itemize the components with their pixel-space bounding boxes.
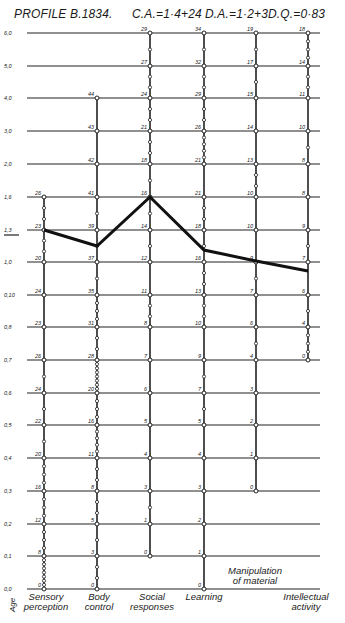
scale-value: 5 — [144, 418, 148, 424]
scale-bead — [148, 304, 151, 307]
scale-value: 3 — [198, 484, 202, 490]
scale-bead — [95, 399, 98, 402]
scale-bead — [42, 563, 45, 566]
scale-bead — [95, 363, 98, 366]
scale-bead — [202, 206, 205, 209]
scale-bead — [306, 342, 309, 345]
scale-bead — [148, 506, 151, 509]
scale-value: 18 — [299, 26, 306, 32]
scale-value: 0 — [38, 582, 42, 588]
scale-value: 20 — [87, 386, 95, 392]
scale-bead — [202, 75, 205, 78]
y-tick-label: 1,0 — [4, 259, 13, 265]
scale-node — [254, 489, 258, 493]
scale-value: 31 — [88, 320, 94, 326]
scale-node — [254, 162, 258, 166]
scale-value: 2 — [197, 517, 201, 523]
scale-value: 37 — [88, 255, 95, 261]
scale-value: 5 — [198, 418, 202, 424]
scale-bead — [95, 383, 98, 386]
scale-bead — [202, 118, 205, 121]
scale-bead — [95, 450, 98, 453]
scale-bead — [254, 277, 257, 280]
scale-value: 10 — [247, 190, 254, 196]
scale-value: 35 — [88, 288, 95, 294]
scale-node — [202, 64, 206, 68]
scale-node — [306, 195, 310, 199]
scale-node — [42, 554, 46, 558]
scale-bead — [148, 107, 151, 110]
y-tick-label: 0,4 — [4, 455, 12, 461]
scale-bead — [306, 350, 309, 353]
scale-bead — [95, 371, 98, 374]
category-label: responses — [130, 601, 174, 612]
scale-value: 10 — [247, 223, 254, 229]
scale-value: 18 — [195, 223, 202, 229]
scale-value: 23 — [34, 320, 42, 326]
scale-node — [95, 129, 99, 133]
scale-value: 16 — [195, 255, 202, 261]
scale-bead — [95, 430, 98, 433]
scale-bead — [95, 565, 98, 568]
scale-node — [95, 554, 99, 558]
scale-bead — [95, 576, 98, 579]
scale-value: 1 — [198, 549, 201, 555]
scale-bead — [306, 48, 309, 51]
scale-value: 7 — [250, 288, 254, 294]
scale-node — [202, 129, 206, 133]
scale-value: 3 — [144, 484, 148, 490]
scale-node — [148, 456, 152, 460]
scale-bead — [306, 56, 309, 59]
scale-node — [148, 96, 152, 100]
scale-bead — [42, 579, 45, 582]
category-label: Learning — [186, 591, 224, 602]
y-tick-label: 5,0 — [4, 63, 13, 69]
scale-bead — [95, 277, 98, 280]
scale-bead — [95, 443, 98, 446]
scale-value: 14 — [299, 59, 305, 65]
scale-node — [306, 129, 310, 133]
scale-node — [254, 195, 258, 199]
scale-value: 8 — [38, 549, 42, 555]
scale-bead — [202, 136, 205, 139]
scale-value: 18 — [141, 157, 148, 163]
scale-bead — [95, 336, 98, 339]
scale-bead — [95, 309, 98, 312]
scale-value: 22 — [34, 418, 41, 424]
scale-value: 34 — [195, 26, 201, 32]
scale-value: 24 — [140, 91, 147, 97]
scale-bead — [254, 342, 257, 345]
scale-value: 0 — [250, 484, 254, 490]
scale-bead — [306, 86, 309, 89]
scale-bead — [95, 379, 98, 382]
scale-value: 7 — [302, 255, 306, 261]
scale-bead — [42, 575, 45, 578]
scale-node — [254, 358, 258, 362]
scale-bead — [42, 546, 45, 549]
y-tick-label: 3,0 — [4, 128, 13, 134]
scale-node — [306, 228, 310, 232]
scale-value: 5 — [91, 517, 95, 523]
scale-value: 11 — [141, 288, 147, 294]
scale-bead — [306, 244, 309, 247]
scale-value: 0 — [302, 353, 306, 359]
scale-value: 0 — [144, 549, 148, 555]
scale-bead — [95, 212, 98, 215]
scale-bead — [42, 407, 45, 410]
scale-bead — [254, 48, 257, 51]
y-tick-label: 0,1 — [4, 553, 12, 559]
scale-node — [148, 358, 152, 362]
scale-node — [42, 489, 46, 493]
scale-value: 43 — [88, 124, 95, 130]
scale-bead — [95, 301, 98, 304]
scale-node — [42, 325, 46, 329]
scale-node — [202, 325, 206, 329]
scale-node — [148, 228, 152, 232]
scale-node — [254, 293, 258, 297]
scale-value: 20 — [34, 255, 42, 261]
scale-value: 0 — [198, 582, 202, 588]
scale-bead — [254, 173, 257, 176]
scale-bead — [148, 140, 151, 143]
scale-value: 6 — [144, 386, 148, 392]
scale-node — [95, 522, 99, 526]
